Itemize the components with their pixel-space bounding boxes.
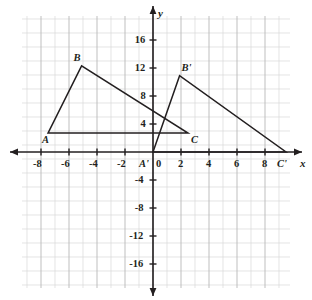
y-tick-label: -8 <box>135 203 144 214</box>
y-tick-label: -12 <box>129 231 143 242</box>
y-tick-label: 12 <box>135 63 146 74</box>
x-tick-label: 8 <box>262 159 267 170</box>
coordinate-plane-figure: -8-6-4-224680161284-4-8-12-16xyABCA'B'C' <box>0 0 312 300</box>
y-tick-label: 16 <box>135 35 146 46</box>
y-tick-label: -4 <box>135 175 144 186</box>
y-axis-arrow-down <box>150 288 157 296</box>
x-tick-label: -2 <box>117 159 126 170</box>
x-tick-label: -4 <box>89 159 98 170</box>
origin-label: 0 <box>156 159 161 170</box>
y-tick-label: 4 <box>140 119 145 130</box>
x-axis-arrow-right <box>294 149 302 156</box>
axes <box>10 6 302 296</box>
x-tick-label: -8 <box>33 159 42 170</box>
y-axis-arrow-up <box>150 6 157 14</box>
vertex-label-a: A <box>42 135 49 146</box>
x-axis-label: x <box>300 158 306 169</box>
y-axis-label: y <box>158 8 163 19</box>
y-tick-label: -16 <box>129 259 143 270</box>
y-tick-label: 8 <box>140 91 145 102</box>
vertex-label-b: B <box>74 53 81 64</box>
triangle-image <box>153 76 286 152</box>
x-tick-label: 6 <box>234 159 239 170</box>
vertex-label-c: C <box>191 135 198 146</box>
vertex-label-b-prime: B' <box>182 63 192 74</box>
x-tick-label: 4 <box>206 159 211 170</box>
x-tick-label: -6 <box>61 159 70 170</box>
x-axis-arrow-left <box>10 149 18 156</box>
vertex-label-c-prime: C' <box>277 159 287 170</box>
x-tick-label: 2 <box>178 159 183 170</box>
vertex-label-a-prime: A' <box>139 159 149 170</box>
coordinate-plane-svg <box>0 0 312 300</box>
